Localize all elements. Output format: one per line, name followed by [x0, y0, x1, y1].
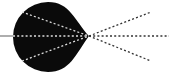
ray-line: [89, 36, 151, 61]
outer-rays: [89, 12, 169, 61]
ray-line: [89, 12, 151, 36]
lens-ray-diagram: [0, 0, 169, 75]
lens-body: [13, 2, 89, 72]
